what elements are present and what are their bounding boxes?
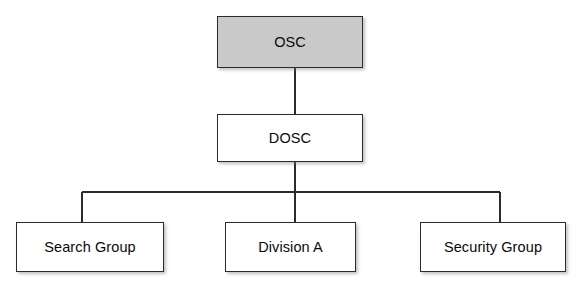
node-dosc-label: DOSC <box>269 131 311 146</box>
node-security-group-label: Security Group <box>444 240 542 255</box>
node-search-group[interactable]: Search Group <box>16 222 164 272</box>
node-osc[interactable]: OSC <box>217 16 363 68</box>
node-osc-label: OSC <box>274 35 306 50</box>
node-division-a[interactable]: Division A <box>225 222 356 272</box>
org-chart-diagram: OSC DOSC Search Group Division A Securit… <box>0 0 579 288</box>
node-security-group[interactable]: Security Group <box>420 222 566 272</box>
node-division-a-label: Division A <box>258 240 323 255</box>
node-dosc[interactable]: DOSC <box>217 114 363 162</box>
node-search-group-label: Search Group <box>44 240 135 255</box>
